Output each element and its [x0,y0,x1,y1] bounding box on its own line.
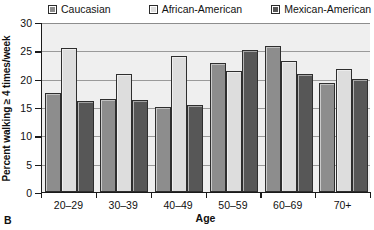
x-axis-tick-label: 60–69 [260,199,315,211]
x-axis-tick [315,192,316,198]
gridline [42,51,370,52]
bar [210,63,226,192]
legend-label: Caucasian [61,4,111,15]
bar [336,69,352,192]
bar [297,74,313,192]
x-axis-tick [206,192,207,198]
panel-label: B [4,214,12,226]
bar [77,101,93,192]
bar [226,71,242,192]
bar [281,61,297,192]
legend-label: Mexican-American [284,4,371,15]
legend-swatch-icon [271,5,280,14]
y-axis-title: Percent walking ≥ 4 times/week [0,23,14,193]
bar [100,99,116,193]
x-axis-title: Age [41,212,370,224]
y-axis-tick [35,80,41,81]
legend-entry: Mexican-American [271,1,371,17]
y-axis-tick-label: 10 [13,130,32,142]
legend-swatch-icon [48,5,57,14]
x-axis-tick [41,192,42,198]
x-axis-tick [370,192,371,198]
bar [45,93,61,192]
bar [187,105,203,192]
x-axis-tick [96,192,97,198]
y-axis-tick [35,51,41,52]
x-axis-tick-label: 30–39 [96,199,151,211]
plot-area [41,23,370,193]
y-axis-tick-label: 25 [13,45,32,57]
y-axis-tick-label: 0 [13,187,32,199]
chart-legend: CaucasianAfrican-AmericanMexican-America… [44,1,370,17]
x-axis-tick-label: 70+ [315,199,370,211]
legend-swatch-icon [149,5,158,14]
y-axis-tick [35,165,41,166]
legend-label: African-American [162,4,243,15]
bar [132,100,148,192]
legend-entry: African-American [149,1,243,17]
legend-entry: Caucasian [48,1,111,17]
x-axis-tick-label: 50–59 [206,199,261,211]
bar [319,83,335,192]
bar [171,56,187,192]
bar [116,74,132,192]
y-axis-tick [35,23,41,24]
y-axis-tick-label: 5 [13,159,32,171]
bar [242,50,258,192]
gridline [42,80,370,81]
y-axis-tick [35,108,41,109]
figure-panel-b: CaucasianAfrican-AmericanMexican-America… [0,0,374,230]
bar [352,79,368,192]
y-axis-tick-label: 15 [13,102,32,114]
gridline [42,23,370,24]
bar [155,107,171,192]
y-axis-tick-label: 20 [13,74,32,86]
x-axis-tick-label: 20–29 [41,199,96,211]
bar [265,46,281,192]
bar [61,48,77,193]
y-axis-tick-label: 30 [13,17,32,29]
y-axis-tick [35,136,41,137]
y-axis-title-text: Percent walking ≥ 4 times/week [2,35,13,181]
x-axis-tick [260,192,261,198]
x-axis-tick-label: 40–49 [151,199,206,211]
x-axis-tick [151,192,152,198]
